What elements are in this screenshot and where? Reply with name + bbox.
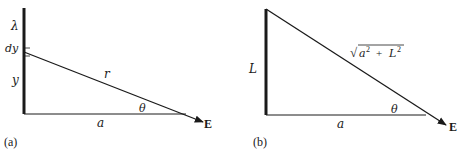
panel-a: λ dy y r θ a E (a) — [4, 8, 212, 149]
panel-b: L √ a 2 + L 2 θ a E (b) — [248, 9, 457, 149]
L-label: L — [248, 62, 257, 76]
sqrt-a: a — [359, 47, 366, 60]
lambda-label: λ — [10, 19, 19, 33]
caption-a: (a) — [4, 135, 17, 149]
hypotenuse-r — [24, 52, 203, 122]
dy-label: dy — [5, 42, 19, 55]
sqrt-exp2: 2 — [397, 45, 401, 54]
a-label: a — [337, 117, 344, 131]
theta-label: θ — [391, 103, 398, 116]
sqrt-plus: + — [376, 47, 382, 59]
sqrt-exp1: 2 — [366, 45, 370, 54]
caption-b: (b) — [253, 135, 267, 149]
y-label: y — [11, 73, 19, 87]
field-E-label: E — [449, 120, 457, 134]
hypotenuse — [266, 9, 446, 125]
r-label: r — [104, 67, 111, 81]
figure-canvas: λ dy y r θ a E (a) L √ a 2 + L 2 θ a E (… — [0, 0, 463, 158]
a-label: a — [97, 116, 104, 130]
sqrt-symbol: √ — [350, 45, 358, 60]
hypotenuse-label: √ a 2 + L 2 — [350, 45, 404, 60]
theta-label: θ — [139, 102, 146, 115]
sqrt-L: L — [388, 47, 396, 60]
field-E-label: E — [204, 117, 212, 131]
